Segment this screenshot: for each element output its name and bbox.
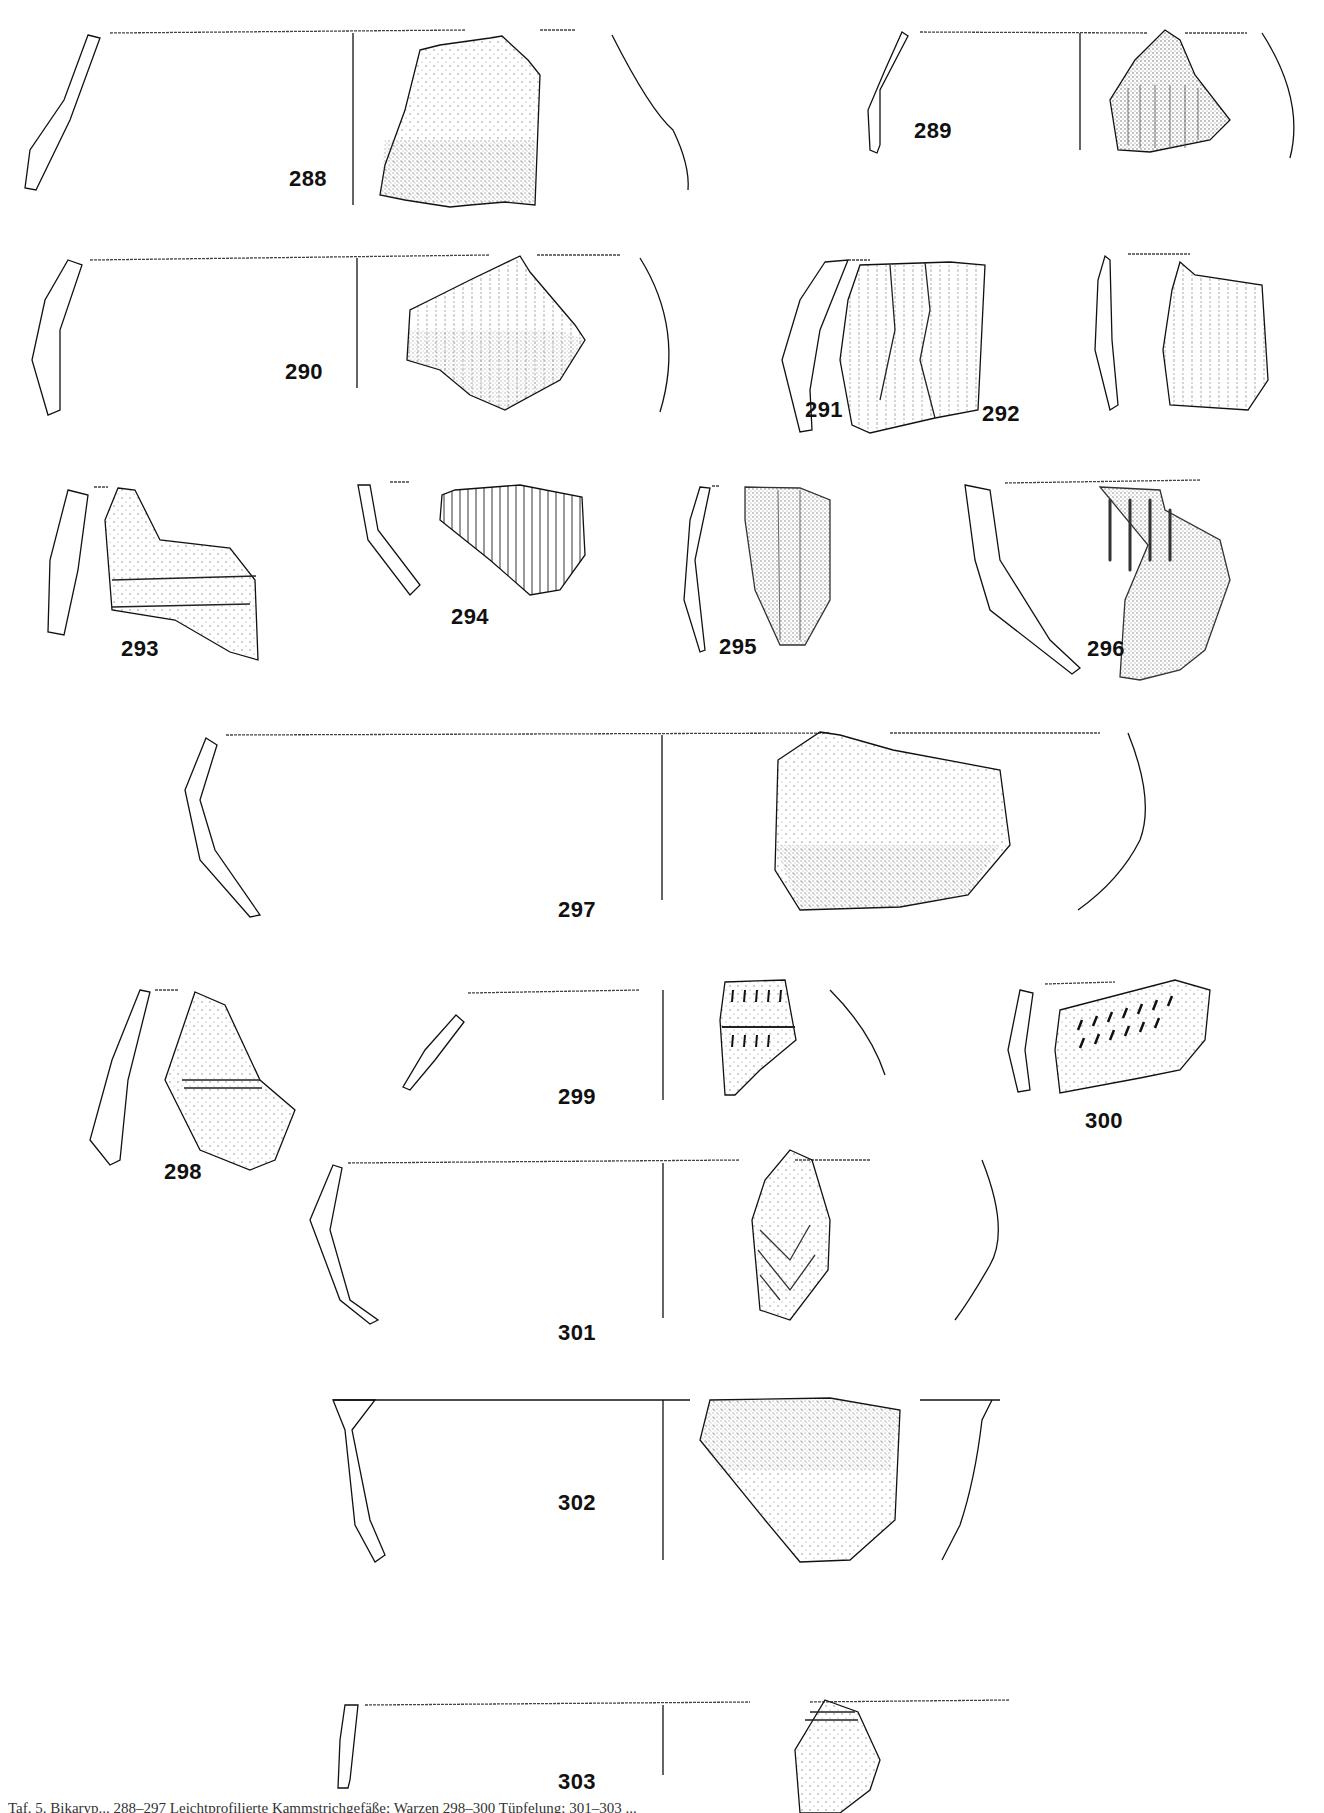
figure-300 xyxy=(1008,980,1210,1093)
figure-297 xyxy=(185,732,1145,917)
figure-label-288: 288 xyxy=(289,166,327,192)
figure-label-300: 300 xyxy=(1085,1108,1123,1134)
figure-301 xyxy=(310,1150,998,1324)
figure-294 xyxy=(358,482,585,595)
figure-label-303: 303 xyxy=(558,1769,596,1795)
figure-label-296: 296 xyxy=(1087,636,1125,662)
figure-299 xyxy=(403,980,885,1100)
figure-label-290: 290 xyxy=(285,359,323,385)
figure-298 xyxy=(90,990,295,1170)
figure-label-291: 291 xyxy=(805,397,843,423)
figure-303 xyxy=(338,1700,1010,1813)
plate-caption: Taf. 5. Bikaryp... 288–297 Leichtprofili… xyxy=(8,1800,1324,1813)
figure-label-302: 302 xyxy=(558,1490,596,1516)
figure-288 xyxy=(25,30,688,207)
figure-302 xyxy=(333,1398,1000,1562)
figure-label-301: 301 xyxy=(558,1320,596,1346)
figure-295 xyxy=(684,486,830,652)
figure-label-297: 297 xyxy=(558,897,596,923)
figure-label-299: 299 xyxy=(558,1084,596,1110)
figure-label-293: 293 xyxy=(121,636,159,662)
figure-290 xyxy=(32,255,669,415)
figure-293 xyxy=(48,487,258,660)
figure-label-289: 289 xyxy=(914,118,952,144)
figure-292 xyxy=(1095,254,1268,410)
figure-label-292: 292 xyxy=(982,401,1020,427)
figure-label-294: 294 xyxy=(451,604,489,630)
pottery-plate xyxy=(0,0,1324,1813)
figure-label-298: 298 xyxy=(164,1159,202,1185)
figure-label-295: 295 xyxy=(719,634,757,660)
